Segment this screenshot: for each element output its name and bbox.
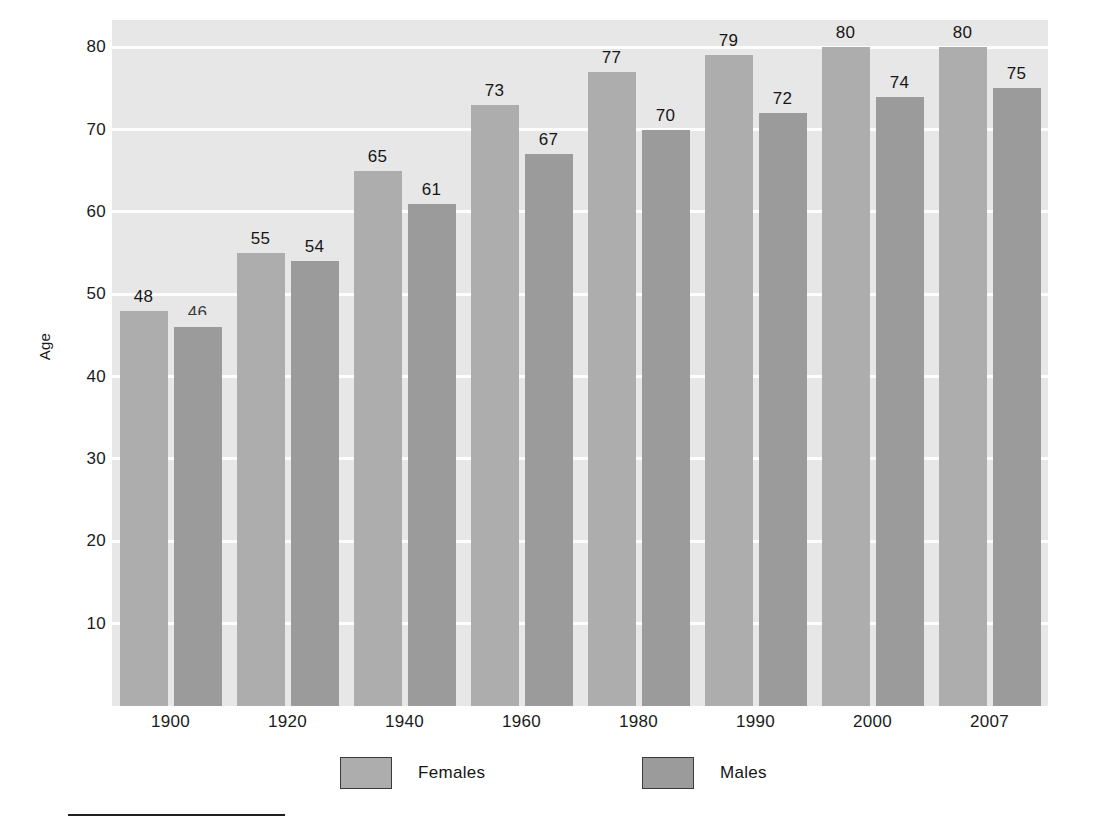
y-axis-tick-label: 70 [60,120,106,140]
x-axis-tick-label-2000: 2000 [814,712,931,732]
legend-swatch-males [642,757,694,789]
y-axis-tick-labels: 8070605040302010 [58,0,106,835]
bar-value-label-male-1960: 67 [525,130,573,150]
bar-value-label-male-1900: 46 [174,303,222,315]
bar-value-label-female-2000: 80 [822,23,870,43]
bar-female-1940[interactable] [354,171,402,706]
bar-male-1920[interactable] [291,261,339,706]
footnote-rule [68,814,285,816]
y-axis-tick-label: 20 [60,531,106,551]
y-axis-tick-label: 50 [60,284,106,304]
bar-value-label-female-1990: 79 [705,31,753,51]
bar-male-1980[interactable] [642,130,690,706]
y-axis-tick-label: 40 [60,367,106,387]
bar-value-label-female-1900: 48 [120,287,168,307]
bar-value-label-female-1960: 73 [471,81,519,101]
bar-value-label-female-1940: 65 [354,147,402,167]
bar-value-label-male-2000: 74 [876,73,924,93]
y-axis-tick-label: 10 [60,614,106,634]
bar-value-label-female-1980: 77 [588,48,636,68]
y-axis-title: Age [36,317,53,377]
bar-value-label-male-1990: 72 [759,89,807,109]
bar-female-1920[interactable] [237,253,285,706]
bar-male-1960[interactable] [525,154,573,706]
y-axis-tick-label: 80 [60,37,106,57]
bar-value-label-male-1920: 54 [291,237,339,257]
bar-value-label-male-1940: 61 [408,180,456,200]
bar-value-label-male-1980: 70 [642,106,690,126]
legend-label: Males [720,763,767,783]
legend-item-males[interactable]: Males [642,757,767,789]
legend-label: Females [418,763,485,783]
bar-male-1940[interactable] [408,204,456,706]
bar-male-2007[interactable] [993,88,1041,706]
bar-chart-figure: Age 8070605040302010 4846555465617367777… [0,0,1094,835]
bar-value-label-female-1920: 55 [237,229,285,249]
bar-male-1900[interactable] [174,327,222,706]
x-axis-tick-labels: 19001920194019601980199020002007 [112,712,1048,742]
bar-female-1960[interactable] [471,105,519,706]
x-axis-tick-label-1990: 1990 [697,712,814,732]
bar-female-1980[interactable] [588,72,636,706]
x-axis-tick-label-1980: 1980 [580,712,697,732]
bar-female-1900[interactable] [120,311,168,706]
bar-value-label-male-2007: 75 [993,64,1041,84]
x-axis-tick-label-1940: 1940 [346,712,463,732]
legend-swatch-females [340,757,392,789]
x-axis-tick-label-1960: 1960 [463,712,580,732]
legend-item-females[interactable]: Females [340,757,485,789]
bar-male-2000[interactable] [876,97,924,706]
bar-male-1990[interactable] [759,113,807,706]
x-axis-tick-label-2007: 2007 [931,712,1048,732]
y-axis-tick-label: 60 [60,202,106,222]
bar-female-2007[interactable] [939,47,987,706]
bar-female-1990[interactable] [705,55,753,706]
x-axis-tick-label-1920: 1920 [229,712,346,732]
bars-layer [112,20,1048,706]
bar-value-label-female-2007: 80 [939,23,987,43]
chart-legend: FemalesMales [112,757,1048,797]
bar-female-2000[interactable] [822,47,870,706]
plot-area: 48465554656173677770797280748075 [112,20,1048,706]
x-axis-tick-label-1900: 1900 [112,712,229,732]
y-axis-tick-label: 30 [60,449,106,469]
